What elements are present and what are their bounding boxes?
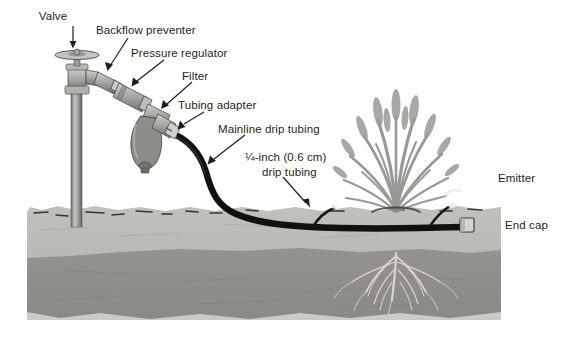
fitting-chain (94, 72, 180, 173)
arrow-valve (70, 26, 77, 49)
valve-assembly (55, 49, 100, 227)
label-emitter: Emitter (498, 172, 535, 185)
label-backflow-preventer: Backflow preventer (96, 24, 196, 37)
label-filter: Filter (182, 70, 208, 83)
label-quarter-inch-line1: ¼-inch (0.6 cm) (245, 151, 326, 164)
label-mainline-drip-tubing: Mainline drip tubing (218, 123, 320, 136)
label-quarter-inch-line2: drip tubing (262, 166, 317, 179)
arrow-tubing-adapter (178, 112, 205, 130)
label-end-cap: End cap (505, 219, 548, 232)
end-cap (460, 218, 474, 232)
valve-handle (55, 49, 99, 66)
label-pressure-regulator: Pressure regulator (131, 47, 227, 60)
arrow-backflow (105, 38, 128, 71)
diagram-canvas: Valve Backflow preventer Pressure regula… (0, 0, 572, 350)
filter (131, 104, 170, 173)
label-tubing-adapter: Tubing adapter (178, 99, 256, 112)
arrow-quarter-inch (283, 177, 310, 208)
subsoil-layer (27, 248, 501, 320)
arrow-mainline (208, 135, 246, 165)
label-valve: Valve (28, 10, 78, 23)
riser-pipe (71, 77, 82, 227)
arrow-pressure-regulator (132, 60, 165, 87)
pressure-regulator (113, 83, 152, 112)
plant (331, 89, 461, 212)
